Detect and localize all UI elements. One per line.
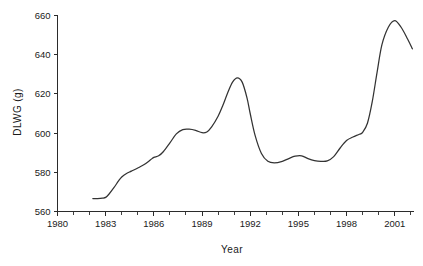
line-chart: 560580600620640660 198019831986198919921… (0, 0, 423, 266)
x-tick-label: 1983 (95, 218, 116, 229)
y-tick-label: 660 (35, 10, 51, 21)
x-tick-label: 1998 (336, 218, 357, 229)
chart-container: 560580600620640660 198019831986198919921… (0, 0, 423, 266)
series-line-dlwg (93, 21, 413, 199)
y-axis-ticks: 560580600620640660 (35, 10, 58, 217)
x-tick-label: 2001 (384, 218, 405, 229)
y-tick-label: 580 (35, 167, 51, 178)
y-axis-title: DLWG (g) (12, 88, 23, 135)
y-tick-label: 600 (35, 128, 51, 139)
x-axis-ticks: 19801983198619891992199519982001 (47, 212, 411, 229)
x-tick-label: 1986 (143, 218, 164, 229)
y-tick-label: 560 (35, 206, 51, 217)
y-tick-label: 620 (35, 88, 51, 99)
x-axis-title: Year (221, 244, 243, 255)
data-series (93, 21, 413, 199)
x-tick-label: 1995 (288, 218, 309, 229)
x-tick-label: 1980 (47, 218, 68, 229)
x-tick-label: 1992 (240, 218, 261, 229)
axis-lines (58, 16, 415, 212)
y-tick-label: 640 (35, 49, 51, 60)
x-tick-label: 1989 (191, 218, 212, 229)
